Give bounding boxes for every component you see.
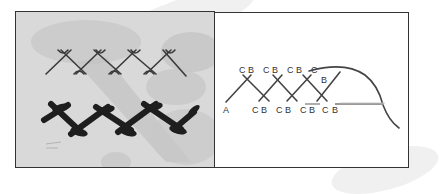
label-bottom-b: B	[285, 105, 291, 115]
label-top-c: C	[239, 65, 246, 75]
label-top-c: C	[263, 65, 270, 75]
stitch-photo-panel	[15, 11, 215, 168]
label-bottom-c: C	[252, 105, 259, 115]
stitch-diagram-panel: A C B C B C B C B C B C B C B C B	[214, 12, 409, 168]
label-bottom-b: B	[261, 105, 267, 115]
label-bottom-c: C	[322, 105, 329, 115]
stitch-photo	[16, 12, 215, 168]
label-top-b: B	[272, 65, 278, 75]
label-a: A	[223, 105, 229, 115]
herringbone-diagram: A C B C B C B C B C B C B C B C B	[215, 13, 410, 169]
label-top-c: C	[311, 65, 318, 75]
label-top-b: B	[296, 65, 302, 75]
label-top-b: B	[248, 65, 254, 75]
label-bottom-b: B	[332, 105, 338, 115]
diagram-stitch-lines	[226, 67, 399, 128]
label-bottom-c: C	[300, 105, 307, 115]
label-bottom-c: C	[276, 105, 283, 115]
label-bottom-b: B	[309, 105, 315, 115]
needle	[305, 103, 385, 104]
label-top-c: C	[287, 65, 294, 75]
label-needle-b: B	[321, 75, 327, 85]
